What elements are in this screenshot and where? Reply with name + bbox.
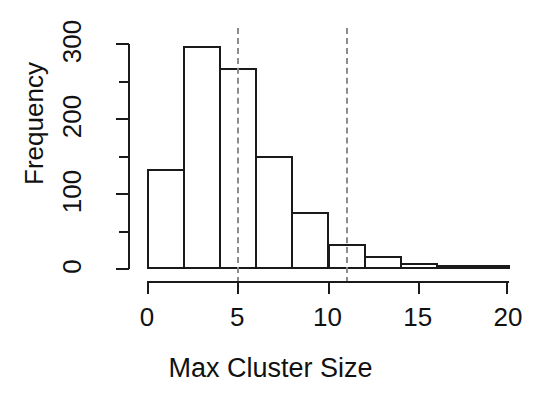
x-tick-15 bbox=[418, 281, 420, 294]
histogram-bar bbox=[400, 263, 438, 269]
y-tick-100 bbox=[116, 193, 129, 195]
x-tick-label-20: 20 bbox=[478, 302, 538, 333]
x-tick-label-15: 15 bbox=[388, 302, 448, 333]
x-tick-10 bbox=[328, 281, 330, 294]
upper-reference-line bbox=[346, 28, 348, 283]
y-axis-title: Frequency bbox=[19, 44, 50, 204]
histogram-bars bbox=[147, 44, 509, 269]
y-tick-label-300: 300 bbox=[57, 7, 88, 77]
x-tick-5 bbox=[237, 281, 239, 294]
x-axis-title: Max Cluster Size bbox=[0, 353, 541, 384]
histogram-bar bbox=[183, 46, 221, 269]
x-tick-label-0: 0 bbox=[117, 302, 177, 333]
histogram-figure: 0100200300 05101520 Frequency Max Cluste… bbox=[0, 0, 541, 402]
y-tick-300 bbox=[116, 43, 129, 45]
y-tick-200 bbox=[116, 118, 129, 120]
histogram-bar bbox=[147, 169, 185, 269]
histogram-bar bbox=[255, 156, 293, 269]
x-tick-label-10: 10 bbox=[298, 302, 358, 333]
histogram-bar bbox=[472, 265, 510, 269]
y-tick-label-200: 200 bbox=[57, 82, 88, 152]
histogram-bar bbox=[364, 256, 402, 269]
y-tick-label-0: 0 bbox=[57, 232, 88, 302]
x-tick-20 bbox=[506, 281, 508, 294]
histogram-bar bbox=[436, 265, 474, 269]
y-minor-tick-250 bbox=[119, 81, 129, 83]
y-tick-0 bbox=[116, 268, 129, 270]
y-tick-label-100: 100 bbox=[57, 157, 88, 227]
y-minor-tick-50 bbox=[119, 231, 129, 233]
x-tick-label-5: 5 bbox=[207, 302, 267, 333]
x-tick-0 bbox=[147, 281, 149, 294]
lower-reference-line bbox=[237, 28, 239, 283]
histogram-bar bbox=[291, 212, 329, 269]
y-minor-tick-150 bbox=[119, 156, 129, 158]
